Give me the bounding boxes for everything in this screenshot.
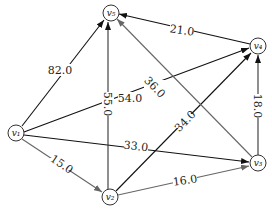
- node-v1[interactable]: v₁: [8, 125, 24, 141]
- node-v3[interactable]: v₃: [250, 155, 266, 171]
- edge-v2-v5: 55.0: [101, 22, 114, 189]
- node-v4[interactable]: v₄: [250, 38, 266, 54]
- edge-weight: 21.0: [169, 22, 195, 38]
- node-label: v₁: [12, 128, 21, 138]
- edge-weight: 16.0: [172, 172, 198, 188]
- node-label: v₂: [106, 192, 115, 202]
- node-label: v₄: [254, 41, 263, 51]
- edge-weight: 18.0: [251, 94, 264, 119]
- edge-v1-v2: 15.0: [22, 139, 102, 192]
- edge-v4-v5: 21.0: [119, 14, 250, 44]
- edge-weight: 15.0: [48, 152, 76, 176]
- node-v5[interactable]: v₅: [103, 5, 119, 21]
- edge-v1-v5: 82.0: [22, 20, 104, 126]
- edge-weight: 33.0: [123, 139, 149, 155]
- edge-weight: 54.0: [118, 92, 143, 105]
- edge-v3-v4: 18.0: [251, 55, 264, 155]
- graph-canvas: 82.0 54.0 33.0 15.0 55.0 34.0 16.0 18.0: [0, 0, 272, 214]
- edge-weight: 55.0: [101, 92, 114, 117]
- node-label: v₅: [107, 8, 116, 18]
- edge-v2-v3: 16.0: [118, 166, 249, 195]
- node-label: v₃: [254, 158, 263, 168]
- edge-weight: 82.0: [48, 64, 73, 77]
- node-v2[interactable]: v₂: [102, 189, 118, 205]
